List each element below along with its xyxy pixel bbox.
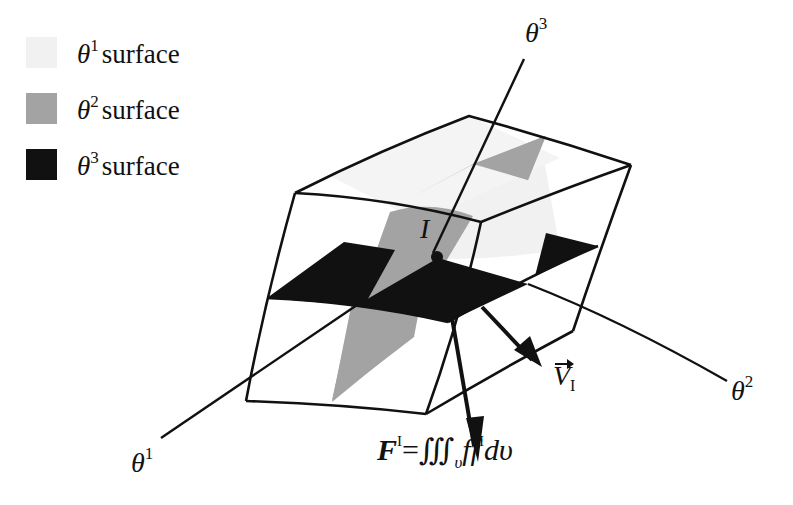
theta3-swatch — [26, 149, 57, 180]
legend-label: θ2surface — [77, 92, 180, 126]
theta2-swatch — [26, 93, 57, 124]
theta1-axis-label: θ1 — [131, 444, 153, 479]
legend-item-theta1: θ1surface — [26, 34, 180, 71]
theta3-axis-label: θ3 — [525, 14, 547, 49]
theta1-axis-line — [161, 305, 357, 438]
theta2-surface-lower — [332, 302, 416, 402]
theta2-axis-label: θ2 — [731, 372, 753, 407]
legend-label: θ3surface — [77, 148, 180, 182]
legend: θ1surface θ2surface θ3surface — [26, 34, 180, 183]
velocity-label: VI — [553, 360, 575, 395]
theta1-swatch — [26, 37, 57, 68]
legend-item-theta3: θ3surface — [26, 146, 180, 183]
point-I-label: I — [420, 213, 429, 245]
force-formula: FI=∭υffIdυ — [377, 432, 513, 473]
legend-label: θ1surface — [77, 36, 180, 70]
legend-item-theta2: θ2surface — [26, 90, 180, 127]
